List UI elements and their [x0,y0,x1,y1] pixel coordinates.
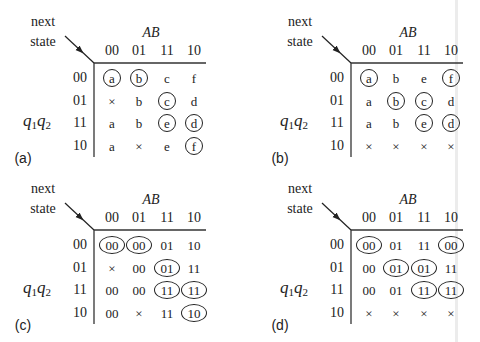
next-label: next [288,15,312,29]
q1-var: q [23,111,32,130]
table-cell: b [136,95,143,108]
arrow-icon [322,203,338,218]
circled-cell: 11 [438,281,464,299]
circled-cell: d [442,114,460,132]
row-header: 01 [73,94,87,108]
dont-care-cell: × [392,140,399,153]
column-header: 11 [160,211,173,225]
column-header: 01 [132,211,146,225]
table-cell: 00 [106,307,119,320]
circled-cell: f [185,137,203,155]
ab-axis-label: AB [142,26,159,40]
column-header: 11 [417,211,430,225]
table-cell: d [191,95,198,108]
row-header: 00 [330,71,344,85]
cell-value: 00 [363,239,376,252]
panel-tag: (b) [271,151,288,165]
cell-value: f [192,140,196,153]
dont-care-cell: × [447,307,454,320]
cell-value: 00 [106,239,119,252]
table-cell: 01 [390,284,403,297]
cell-value: 01 [161,262,174,275]
cell-value: d [191,117,198,130]
column-header: 10 [187,211,201,225]
state-table-a: nextstateAB0001111000011110q1q2(a)abcf×b… [0,0,240,171]
next-label: next [288,182,312,196]
ab-axis-label: AB [142,193,159,207]
column-header: 00 [362,44,376,58]
dont-care-cell: × [365,140,372,153]
row-header: 10 [330,306,344,320]
column-header: 10 [187,44,201,58]
circled-cell: b [130,69,148,87]
cell-value: f [449,72,453,85]
row-header: 00 [73,238,87,252]
cell-value: 11 [445,284,458,297]
table-cell: 11 [188,262,201,275]
dont-care-cell: × [108,262,115,275]
panel-tag: (a) [14,151,31,165]
circled-cell: 00 [438,236,464,254]
circled-cell: 00 [99,236,125,254]
column-header: 10 [444,44,458,58]
row-header: 11 [330,116,343,130]
table-cell: 01 [161,239,174,252]
row-header: 11 [73,116,86,130]
state-table-c: nextstateAB0001111000011110q1q2(c)000001… [0,167,240,338]
q1q2-axis-label: q1q2 [280,112,308,131]
table-cell: e [421,72,427,85]
circled-cell: b [387,92,405,110]
panel-tag: (d) [271,318,288,332]
panel-tag: (c) [15,318,31,332]
circled-cell: 01 [154,259,180,277]
q2-subscript: 2 [46,286,52,298]
column-header: 01 [132,44,146,58]
table-cell: a [109,140,115,153]
column-header: 00 [105,211,119,225]
cell-value: 01 [390,262,403,275]
cell-value: a [109,72,115,85]
state-table-b: nextstateAB0001111000011110q1q2(b)abefab… [257,0,480,171]
q2-var: q [294,278,303,297]
circled-cell: 10 [181,304,207,322]
table-cell: f [192,72,196,85]
state-label: state [287,35,313,49]
table-cell: b [393,117,400,130]
circled-cell: 01 [411,259,437,277]
cell-value: a [366,72,372,85]
table-cell: 11 [445,262,458,275]
table-cell: a [109,117,115,130]
table-cell: b [393,72,400,85]
q2-var: q [37,278,46,297]
ab-axis-label: AB [399,26,416,40]
q2-subscript: 2 [303,119,309,131]
next-label: next [31,182,55,196]
cell-value: 00 [133,239,146,252]
column-header: 00 [362,211,376,225]
cell-value: 11 [418,284,431,297]
column-header: 01 [389,44,403,58]
q2-var: q [37,111,46,130]
dont-care-cell: × [135,307,142,320]
dont-care-cell: × [108,95,115,108]
cell-value: e [421,117,427,130]
state-table-d: nextstateAB0001111000011110q1q2(d)000111… [257,167,480,338]
q1-var: q [23,278,32,297]
column-header: 01 [389,211,403,225]
table-cell: 10 [188,239,201,252]
cell-value: 01 [418,262,431,275]
table-cell: a [366,117,372,130]
column-header: 11 [417,44,430,58]
state-label: state [30,35,56,49]
cell-value: b [393,95,400,108]
circled-cell: a [360,69,378,87]
row-header: 00 [330,238,344,252]
table-cell: c [164,72,170,85]
cell-value: 11 [188,284,201,297]
dont-care-cell: × [135,140,142,153]
arrow-icon [65,203,81,218]
q1q2-axis-label: q1q2 [23,279,51,298]
column-header: 11 [160,44,173,58]
circled-cell: 00 [356,236,382,254]
arrow-icon [65,36,81,51]
